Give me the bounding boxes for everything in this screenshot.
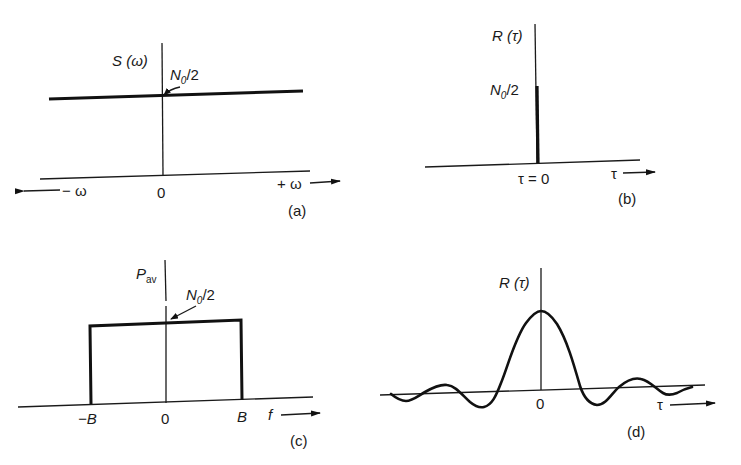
panel-b-y-label: R (τ) [492, 27, 523, 44]
panel-c-caption: (c) [290, 432, 308, 449]
panel-a-neg-arrow-icon [24, 190, 60, 191]
panel-b: R (τ) N0/2 τ = 0 τ (b) [425, 24, 655, 207]
panel-d-y-label: R (τ) [499, 274, 530, 291]
panel-b-tau-label: τ [611, 165, 617, 182]
panel-a-pos-omega-label: + ω [277, 175, 302, 192]
panel-c-level-pointer-arrow [171, 306, 196, 319]
panel-a: S (ω) N0/2 − ω 0 + ω (a) [24, 43, 340, 219]
panel-a-level-label: N0/2 [170, 66, 199, 86]
panel-a-caption: (a) [288, 202, 306, 219]
panel-c-f-label: f [268, 406, 274, 423]
panel-d-tau-label: τ [657, 396, 663, 413]
panel-c-neg-b-label: −B [78, 410, 97, 427]
panel-c-f-arrow-icon [281, 413, 320, 415]
panel-a-flat-spectrum-line [49, 91, 303, 99]
panel-d-tau-arrow-icon [670, 403, 715, 405]
panel-c-pos-b-label: B [237, 408, 247, 425]
panel-c-origin-label: 0 [161, 410, 169, 427]
panel-b-level-label: N0/2 [490, 81, 519, 101]
panel-b-tau-arrow-icon [623, 172, 655, 173]
panel-a-neg-omega-label: − ω [62, 182, 87, 199]
panel-b-caption: (b) [618, 190, 636, 207]
panel-a-pos-arrow-icon [310, 181, 340, 183]
panel-b-origin-label: τ = 0 [518, 170, 549, 187]
panel-b-impulse-line [537, 86, 538, 163]
panel-a-origin-label: 0 [157, 184, 165, 201]
panel-d-caption: (d) [627, 423, 645, 440]
panel-d: R (τ) 0 τ (d) [380, 268, 715, 440]
panel-b-x-axis [425, 160, 640, 167]
panel-a-y-label: S (ω) [112, 52, 148, 69]
panel-c-level-label: N0/2 [186, 286, 215, 306]
panel-a-x-axis [40, 171, 310, 179]
noise-spectra-figure: S (ω) N0/2 − ω 0 + ω (a) R (τ) N0/2 τ = … [0, 0, 741, 465]
panel-d-origin-label: 0 [536, 395, 544, 412]
panel-a-y-axis [162, 43, 163, 175]
panel-c: Pav N0/2 −B 0 B f (c) [18, 260, 320, 449]
panel-c-y-axis-upper [165, 260, 166, 301]
panel-c-y-label: Pav [136, 265, 157, 285]
